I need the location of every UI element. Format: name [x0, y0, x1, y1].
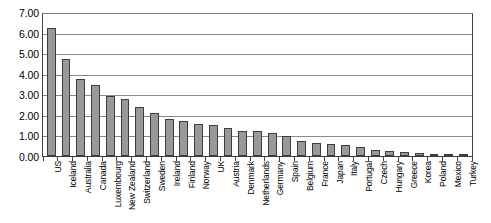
bar-slot	[44, 14, 59, 156]
x-label-slot: UK	[206, 161, 221, 223]
bar-slot	[412, 14, 427, 156]
x-label-slot: Norway	[191, 161, 206, 223]
bar-slot	[441, 14, 456, 156]
x-label-slot: Australia	[73, 161, 88, 223]
bar[interactable]	[209, 125, 218, 156]
bar[interactable]	[282, 136, 291, 156]
bar[interactable]	[371, 150, 380, 156]
bar[interactable]	[224, 128, 233, 156]
bar[interactable]	[76, 79, 85, 156]
bar-slot	[353, 14, 368, 156]
x-label-slot: Germany	[265, 161, 280, 223]
bar[interactable]	[165, 119, 174, 156]
x-label-slot: Spain	[280, 161, 295, 223]
y-tick-label: 0.00	[19, 152, 39, 162]
x-label-slot: Portugal	[354, 161, 369, 223]
bar[interactable]	[268, 133, 277, 156]
x-label-slot: Iceland	[58, 161, 73, 223]
plot-area	[42, 13, 473, 157]
x-label-slot: Finland	[176, 161, 191, 223]
bar[interactable]	[327, 144, 336, 156]
x-label-slot: Greece	[398, 161, 413, 223]
bar-slot	[221, 14, 236, 156]
bar-slot	[456, 14, 471, 156]
bar-slot	[73, 14, 88, 156]
bar[interactable]	[47, 28, 56, 156]
x-label-slot: Netherlands	[250, 161, 265, 223]
y-tick-label: 2.00	[19, 111, 39, 121]
x-tick-label: Turkey	[469, 161, 478, 186]
y-tick-label: 6.00	[19, 29, 39, 39]
bar[interactable]	[430, 154, 439, 156]
x-label-slot: Korea	[413, 161, 428, 223]
bar-slot	[59, 14, 74, 156]
bar-slot	[162, 14, 177, 156]
x-label-slot: Switzerland	[132, 161, 147, 223]
bar-slot	[147, 14, 162, 156]
bar[interactable]	[400, 152, 409, 156]
x-label-slot: Italy	[339, 161, 354, 223]
bar-slot	[324, 14, 339, 156]
bar[interactable]	[135, 107, 144, 156]
x-label-slot: Hungary	[383, 161, 398, 223]
x-label-slot: Turkey	[457, 161, 472, 223]
y-tick-label: 1.00	[19, 131, 39, 141]
bar-chart: 0.001.002.003.004.005.006.007.00 USIcela…	[0, 0, 491, 223]
bar[interactable]	[356, 147, 365, 156]
bar[interactable]	[62, 59, 71, 156]
y-tick-label: 7.00	[19, 8, 39, 18]
bar-slot	[383, 14, 398, 156]
bar-slot	[427, 14, 442, 156]
bar-slot	[280, 14, 295, 156]
bar[interactable]	[179, 121, 188, 156]
bar-slot	[88, 14, 103, 156]
x-label-slot: Austria	[221, 161, 236, 223]
bar[interactable]	[91, 85, 100, 156]
x-label-slot: Sweden	[147, 161, 162, 223]
x-label-slot: Mexico	[443, 161, 458, 223]
x-label-slot: Denmark	[235, 161, 250, 223]
y-axis: 0.001.002.003.004.005.006.007.00	[0, 13, 42, 157]
x-label-slot: Belgium	[295, 161, 310, 223]
bar[interactable]	[385, 151, 394, 156]
bar-slot	[294, 14, 309, 156]
x-label-slot: France	[309, 161, 324, 223]
x-label-slot: Poland	[428, 161, 443, 223]
bar-slot	[397, 14, 412, 156]
bar[interactable]	[106, 96, 115, 156]
bar-slot	[265, 14, 280, 156]
x-label-slot: Czech	[369, 161, 384, 223]
bar[interactable]	[312, 143, 321, 156]
bar[interactable]	[297, 141, 306, 156]
bar[interactable]	[253, 131, 262, 156]
bar-slot	[132, 14, 147, 156]
y-tick-label: 3.00	[19, 90, 39, 100]
bar-slot	[368, 14, 383, 156]
bar-slot	[250, 14, 265, 156]
x-label-slot: New Zealand	[117, 161, 132, 223]
bar-slot	[235, 14, 250, 156]
bar[interactable]	[459, 154, 468, 156]
y-tick-label: 4.00	[19, 70, 39, 80]
bar[interactable]	[341, 145, 350, 156]
bar-slot	[191, 14, 206, 156]
bar-slot	[206, 14, 221, 156]
y-tick-label: 5.00	[19, 49, 39, 59]
x-label-slot: Japan	[324, 161, 339, 223]
x-label-slot: US	[43, 161, 58, 223]
bar[interactable]	[444, 154, 453, 156]
bar[interactable]	[150, 113, 159, 156]
bar-slot	[176, 14, 191, 156]
bar-slot	[309, 14, 324, 156]
x-label-slot: Ireland	[161, 161, 176, 223]
bar[interactable]	[194, 124, 203, 156]
bar-slot	[103, 14, 118, 156]
x-label-slot: Luxembourg	[102, 161, 117, 223]
x-axis: USIcelandAustraliaCanadaLuxembourgNew Ze…	[42, 161, 473, 223]
bars-layer	[43, 14, 472, 156]
x-label-slot: Canada	[87, 161, 102, 223]
bar-slot	[118, 14, 133, 156]
bar[interactable]	[415, 153, 424, 156]
bar[interactable]	[238, 131, 247, 156]
bar[interactable]	[121, 99, 130, 156]
